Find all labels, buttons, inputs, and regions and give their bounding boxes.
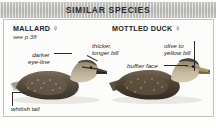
mottled-duck-illustration [107,50,211,108]
plate-header-band: SIMILAR SPECIES [0,2,216,18]
species-label-mallard: MALLARD ♀ [13,24,59,33]
plate-title: SIMILAR SPECIES [0,5,216,15]
illustration-frame: MALLARD ♀ see p.38 MOTTLED DUCK ♀ [3,19,214,117]
callout-olive-to-yellow-bill: olive to yellow bill [164,42,190,57]
leader-line-whitish-tail-horizontal [12,92,26,93]
callout-thicker-longer-bill-line2: longer bill [92,49,118,56]
callout-thicker-longer-bill-line1: thicker, [92,42,118,49]
callout-buffier-face-line1: buffier face [127,62,158,69]
leader-line-whitish-tail-vertical [12,92,13,106]
callout-whitish-tail-line1: whitish tail [11,105,40,112]
leader-line-darker-eye-line [54,53,72,54]
female-symbol-mallard: ♀ [53,24,59,33]
species-page-reference: see p.38 [13,33,37,40]
callout-buffier-face: buffier face [127,62,158,69]
species-label-mottled-duck: MOTTLED DUCK ♀ [112,24,181,33]
callout-darker-eye-line-line1: darker [28,51,50,58]
callout-whitish-tail: whitish tail [11,105,40,112]
female-symbol-mottled-duck: ♀ [175,24,181,33]
leader-line-olive-to-yellow-bill [194,41,195,71]
callout-olive-to-yellow-bill-line2: yellow bill [164,49,190,56]
leader-line-buffier-face [164,65,188,66]
callout-darker-eye-line: darker eye-line [28,51,50,66]
species-name-mallard: MALLARD [13,24,50,33]
similar-species-plate: SIMILAR SPECIES MALLARD ♀ see p.38 MOTTL… [0,0,216,128]
callout-darker-eye-line-line2: eye-line [28,58,50,65]
callout-thicker-longer-bill: thicker, longer bill [92,42,118,57]
callout-olive-to-yellow-bill-line1: olive to [164,42,190,49]
species-name-mottled-duck: MOTTLED DUCK [112,24,173,33]
